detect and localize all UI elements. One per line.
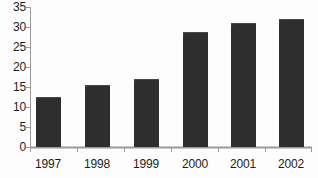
axis-lines <box>0 0 318 178</box>
bar-1998 <box>85 85 110 147</box>
x-tick-label-2000: 2000 <box>169 157 221 171</box>
bar-2000 <box>183 32 208 147</box>
bar-1999 <box>134 79 159 147</box>
bar-chart-plot-area: 35 30 25 20 15 10 5 0 <box>0 0 318 178</box>
clipped-caption-text <box>4 170 316 178</box>
chart-figure: 35 30 25 20 15 10 5 0 <box>0 0 318 178</box>
bar-1997 <box>36 97 61 147</box>
x-tick-label-1997: 1997 <box>22 157 74 171</box>
x-tick-label-2001: 2001 <box>217 157 269 171</box>
x-tick-label-1998: 1998 <box>71 157 123 171</box>
bar-2001 <box>231 23 256 147</box>
x-tick-label-1999: 1999 <box>120 157 172 171</box>
x-tick-label-2002: 2002 <box>265 157 317 171</box>
bar-2002 <box>279 19 304 147</box>
